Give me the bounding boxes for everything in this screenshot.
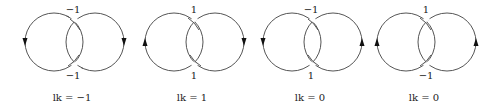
linking-number-label: lk = 0 [394,92,454,104]
arrow-down-icon [242,38,247,46]
arrow-down-icon [23,38,28,46]
arrow-up-icon [474,38,479,46]
linking-number-label: lk = −1 [42,92,102,104]
link-diagram-4: 1 −1 lk = 0 [362,0,482,108]
bottom-crossing-sign: 1 [184,71,204,81]
linking-number-label: lk = 1 [162,92,222,104]
bottom-crossing-sign: 1 [301,71,321,81]
arrow-down-icon [261,38,266,46]
top-crossing-sign: −1 [63,5,83,15]
bottom-crossing-sign: −1 [63,71,83,81]
linking-number-label: lk = 0 [280,92,340,104]
link-diagram-2: 1 1 lk = 1 [130,0,250,108]
arrow-down-icon [122,38,127,46]
link-diagram-1: −1 −1 lk = −1 [10,0,130,108]
arrow-up-icon [375,38,380,46]
top-crossing-sign: 1 [184,5,204,15]
top-crossing-sign: 1 [416,5,436,15]
link-diagram-3: −1 1 lk = 0 [248,0,368,108]
arrow-up-icon [143,38,148,46]
top-crossing-sign: −1 [301,5,321,15]
bottom-crossing-sign: −1 [416,71,436,81]
